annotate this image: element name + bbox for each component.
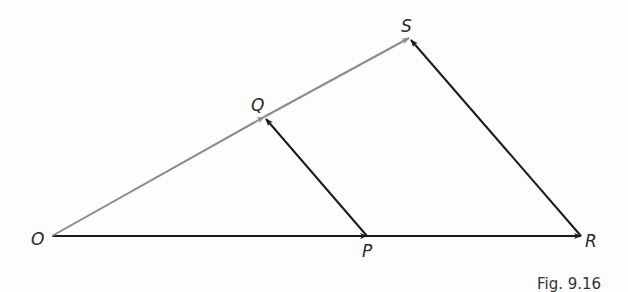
figure-caption: Fig. 9.16 — [537, 275, 601, 292]
vector-oq — [52, 117, 264, 236]
label-point-q: Q — [251, 95, 264, 115]
vector-pq — [266, 119, 367, 236]
label-point-p: P — [362, 241, 373, 261]
label-point-r: R — [585, 231, 597, 251]
label-point-s: S — [401, 16, 412, 36]
label-point-o: O — [31, 229, 44, 249]
vector-rs — [411, 40, 581, 236]
vector-diagram: O P R Q S Fig. 9.16 — [0, 0, 628, 292]
vector-qs — [264, 38, 409, 117]
